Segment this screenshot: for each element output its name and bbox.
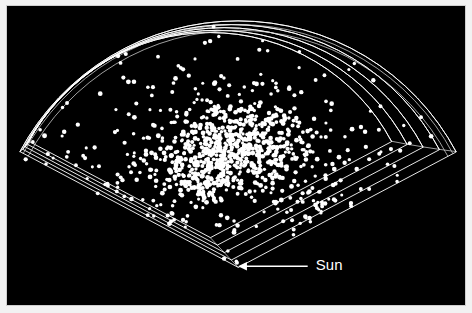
sun-label: Sun xyxy=(316,257,343,273)
figure-root: Sun xyxy=(0,0,472,313)
sun-arrow-head-icon xyxy=(238,262,247,270)
sun-annotation: Sun xyxy=(238,257,343,273)
wedge-diagram-svg: Sun xyxy=(7,6,465,305)
plot-frame: Sun xyxy=(6,5,466,306)
